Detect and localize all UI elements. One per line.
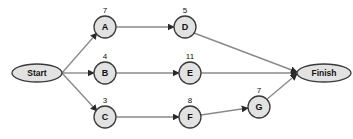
node-duration-label: 11	[186, 52, 195, 61]
node-duration-label: 7	[103, 6, 108, 15]
terminal-node-finish[interactable]: Finish	[297, 64, 351, 82]
node-duration-label: 4	[103, 52, 108, 61]
node-duration-label: 7	[257, 86, 262, 95]
terminal-node-start[interactable]: Start	[12, 64, 62, 82]
edge-g-finish	[266, 74, 297, 100]
nodes-layer: A7D5B4E11C3F8G7	[94, 6, 270, 128]
activity-node-D[interactable]: D5	[174, 6, 196, 38]
network-diagram-svg: StartFinish A7D5B4E11C3F8G7	[0, 0, 353, 139]
node-label: A	[102, 22, 109, 32]
node-label: F	[187, 112, 193, 122]
edge-line	[62, 33, 97, 73]
edge-line	[194, 33, 297, 72]
edge-start-a	[62, 33, 97, 73]
network-diagram-canvas: StartFinish A7D5B4E11C3F8G7	[0, 0, 353, 139]
edge-line	[266, 74, 297, 100]
edge-line	[201, 108, 248, 115]
node-duration-label: 5	[183, 6, 188, 15]
terminal-label: Finish	[311, 68, 336, 78]
node-duration-label: 8	[188, 96, 193, 105]
node-label: B	[102, 68, 109, 78]
node-label: G	[255, 102, 262, 112]
activity-node-B[interactable]: B4	[94, 52, 116, 84]
activity-node-G[interactable]: G7	[248, 86, 270, 118]
activity-node-C[interactable]: C3	[94, 96, 116, 128]
edge-start-c	[62, 73, 97, 111]
node-duration-label: 3	[103, 96, 108, 105]
activity-node-E[interactable]: E11	[179, 52, 201, 84]
terminal-label: Start	[27, 68, 47, 78]
activity-node-A[interactable]: A7	[94, 6, 116, 38]
node-label: E	[187, 68, 193, 78]
edge-line	[62, 73, 97, 111]
node-label: D	[182, 22, 189, 32]
node-label: C	[102, 112, 109, 122]
activity-node-F[interactable]: F8	[179, 96, 201, 128]
edge-f-g	[201, 108, 248, 115]
edge-d-finish	[194, 33, 297, 72]
